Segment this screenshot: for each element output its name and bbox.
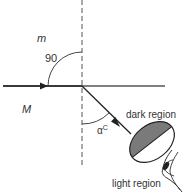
- critical-angle-arc: [82, 113, 109, 124]
- lower-medium-label: M: [22, 104, 31, 115]
- critical-angle-label: αC: [97, 124, 108, 136]
- eye-icon: [162, 150, 182, 192]
- right-angle-label: 90: [45, 53, 57, 64]
- dark-region-label: dark region: [126, 110, 176, 120]
- light-region-label: light region: [112, 179, 161, 189]
- refraction-diagram: [0, 0, 186, 195]
- critical-angle-superscript: C: [103, 124, 108, 131]
- upper-medium-label: m: [37, 33, 46, 44]
- incident-arrow-icon: [40, 83, 48, 90]
